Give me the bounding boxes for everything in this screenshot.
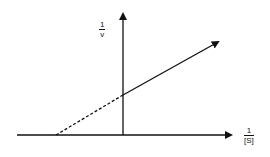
y-axis-label: 1 v [99, 20, 105, 39]
extrapolated-dashed-line [56, 95, 123, 135]
x-label-denominator: [S] [244, 136, 254, 145]
x-axis-label: 1 [S] [244, 126, 254, 145]
y-label-denominator: v [99, 30, 105, 39]
data-solid-line [123, 42, 218, 95]
y-label-numerator: 1 [99, 20, 105, 30]
lineweaver-burk-diagram [0, 0, 270, 157]
x-label-numerator: 1 [244, 126, 254, 136]
